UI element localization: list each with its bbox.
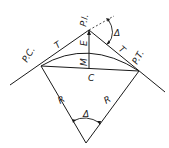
curve-diagram: P.C. P.I. P.T. T T E M C R R Δ Δ — [0, 0, 169, 148]
deflection-angle-arc — [108, 19, 113, 44]
forward-tangent-line — [89, 30, 165, 92]
middle-ordinate-label: M — [79, 58, 89, 66]
pt-label: P.T. — [130, 49, 146, 66]
delta-center-label: Δ — [82, 109, 89, 119]
radius-right-label: R — [102, 94, 112, 106]
radius-left — [41, 66, 86, 143]
arrowhead-icon — [97, 121, 101, 125]
pi-label: P.I. — [78, 13, 90, 27]
external-label: E — [79, 40, 89, 46]
radius-left-label: R — [56, 94, 66, 106]
arrowhead-icon — [106, 40, 110, 45]
long-chord — [41, 66, 139, 71]
delta-top-label: Δ — [113, 28, 120, 38]
chord-label: C — [88, 73, 95, 83]
pc-label: P.C. — [20, 45, 37, 64]
